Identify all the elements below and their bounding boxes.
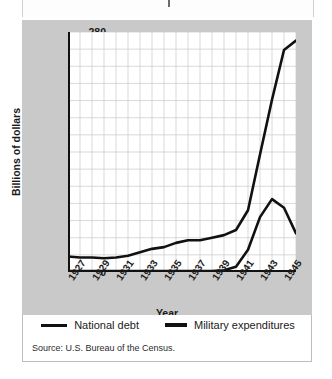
thick-line-swatch-icon <box>165 323 187 327</box>
cropped-tick-mark <box>168 0 170 7</box>
legend-label-military-expenditures: Military expenditures <box>194 319 295 331</box>
cropped-top-sliver <box>22 0 314 17</box>
y-axis-line <box>68 32 70 272</box>
legend-item-military-expenditures: Military expenditures <box>165 319 295 331</box>
chart-legend: National debt Military expenditures <box>23 319 313 331</box>
source-note: Source: U.S. Bureau of the Census. <box>32 343 175 353</box>
y-axis-title-holder: Billions of dollars <box>28 32 42 272</box>
y-axis-title: Billions of dollars <box>10 108 22 196</box>
plot-wrapper: 020406080100120140160180200220240260280 … <box>68 32 296 282</box>
data-lines <box>68 32 296 272</box>
legend-source-panel: National debt Military expenditures Sour… <box>22 315 312 362</box>
plot-area <box>68 32 296 272</box>
chart-panel: Billions of dollars 02040608010012014016… <box>22 20 312 315</box>
legend-label-national-debt: National debt <box>74 319 139 331</box>
legend-item-national-debt: National debt <box>41 319 139 331</box>
series-line-national-debt <box>68 41 296 259</box>
chart-figure: Billions of dollars 02040608010012014016… <box>0 0 332 379</box>
thin-line-swatch-icon <box>41 324 67 327</box>
